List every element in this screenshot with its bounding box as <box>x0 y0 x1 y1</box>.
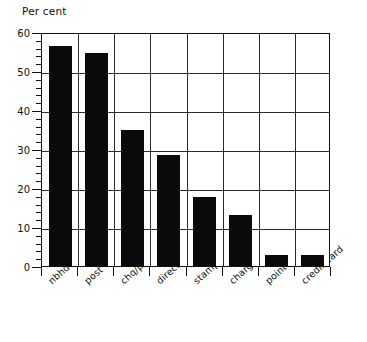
bar-nbhd-office <box>49 46 72 266</box>
y-tick-label-0: 0 <box>0 262 30 273</box>
x-tick-0 <box>41 267 42 276</box>
x-tick-1 <box>77 267 78 276</box>
y-tick-label-50: 50 <box>0 67 30 78</box>
x-tick-8 <box>330 267 331 276</box>
y-tick-major-50 <box>32 72 41 73</box>
x-tick-5 <box>222 267 223 276</box>
x-tick-3 <box>149 267 150 276</box>
x-tick-6 <box>258 267 259 276</box>
y-tick-major-30 <box>32 150 41 151</box>
y-tick-label-30: 30 <box>0 145 30 156</box>
y-axis-title: Per cent <box>22 5 67 17</box>
bar-direct-debit <box>157 155 180 266</box>
y-tick-major-20 <box>32 189 41 190</box>
y-tick-major-60 <box>32 33 41 34</box>
bar-post-office <box>85 53 108 266</box>
y-tick-label-20: 20 <box>0 184 30 195</box>
y-tick-label-60: 60 <box>0 28 30 39</box>
y-tick-label-40: 40 <box>0 106 30 117</box>
bar-chq-post <box>121 130 144 266</box>
x-tick-2 <box>113 267 114 276</box>
x-tick-7 <box>294 267 295 276</box>
y-tick-label-10: 10 <box>0 223 30 234</box>
bar-series <box>42 34 329 266</box>
bar-stamps <box>193 197 216 266</box>
plot-area <box>41 33 330 267</box>
y-tick-major-40 <box>32 111 41 112</box>
y-tick-major-0 <box>32 267 41 268</box>
bar-charge-card <box>229 215 252 266</box>
bar-chart: Per cent 0102030405060 nbhd officepost o… <box>0 0 367 342</box>
bar-point-of-service <box>265 255 288 266</box>
x-tick-4 <box>186 267 187 276</box>
y-tick-major-10 <box>32 228 41 229</box>
bar-credit-card <box>301 255 324 266</box>
